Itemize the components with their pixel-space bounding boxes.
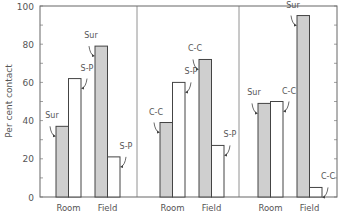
annotation-label: C-C	[188, 44, 202, 53]
bar-c-c-room	[160, 123, 173, 197]
y-tick-label: 40	[23, 116, 35, 126]
y-tick-label: 20	[23, 154, 35, 164]
bar-s-p-field	[212, 145, 225, 197]
bar-c-c-field	[199, 59, 212, 197]
annotation-arrow	[82, 79, 87, 89]
bar-c-c-room	[271, 102, 284, 198]
annotation-arrow	[291, 16, 296, 26]
annotation-arrow	[154, 123, 159, 133]
x-category-label: Room	[258, 203, 282, 213]
annotation-arrow	[323, 187, 328, 197]
x-category-label: Room	[56, 203, 80, 213]
annotation-arrow	[225, 145, 230, 155]
bar-s-p-room	[173, 82, 186, 197]
annotation-arrow	[89, 46, 94, 56]
annotation-label: C-C	[321, 172, 335, 181]
bar-sur-room	[56, 126, 69, 197]
bar-sur-field	[297, 16, 310, 197]
bar-sur-field	[95, 46, 108, 197]
y-tick-label: 80	[23, 40, 35, 50]
annotation-label: Sur	[286, 1, 300, 10]
x-category-label: Room	[160, 203, 184, 213]
y-axis-label: Per cent contact	[4, 64, 14, 138]
y-tick-label: 100	[17, 2, 34, 12]
bar-s-p-field	[108, 157, 121, 197]
y-tick-label: 0	[28, 193, 34, 203]
annotation-label: Sur	[247, 88, 261, 97]
bar-sur-room	[258, 103, 271, 197]
annotation-label: Sur	[45, 111, 59, 120]
annotation-arrow	[284, 102, 289, 112]
annotation-label: S-P	[185, 67, 198, 76]
bar-c-c-field	[310, 187, 323, 197]
bar-chart: 020406080100 SurS-PSurS-PC-CS-PC-CS-PSur…	[0, 0, 352, 216]
x-category-label: Field	[98, 203, 118, 213]
annotation-label: S-P	[224, 130, 237, 139]
annotation-label: S-P	[120, 142, 133, 151]
x-category-label: Field	[300, 203, 320, 213]
annotation-label: C-C	[149, 108, 163, 117]
annotation-arrow	[121, 157, 126, 167]
annotation-label: C-C	[282, 87, 296, 96]
annotation-arrow	[50, 126, 55, 136]
bar-s-p-room	[69, 79, 82, 197]
annotation-label: S-P	[81, 64, 94, 73]
y-tick-label: 60	[23, 78, 35, 88]
annotation-label: Sur	[84, 31, 98, 40]
x-axis-labels: RoomFieldRoomFieldRoomField	[56, 203, 319, 213]
annotation-arrow	[186, 82, 191, 92]
bar-annotations: SurS-PSurS-PC-CS-PC-CS-PSurC-CSurC-C	[45, 1, 335, 199]
x-category-label: Field	[202, 203, 222, 213]
annotation-arrow	[252, 103, 257, 113]
bars	[56, 16, 322, 197]
